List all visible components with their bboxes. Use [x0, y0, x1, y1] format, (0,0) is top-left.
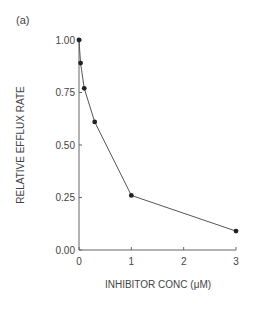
y-tick-label: 0.25	[56, 192, 76, 203]
data-point	[82, 86, 87, 91]
data-line	[79, 40, 236, 231]
y-tick-label: 0.75	[56, 87, 76, 98]
x-tick-label: 3	[233, 256, 239, 267]
y-tick-label: 0.50	[56, 140, 76, 151]
data-point	[92, 120, 97, 125]
x-tick-labels: 0123	[76, 256, 239, 267]
x-tick-label: 2	[181, 256, 187, 267]
data-point	[77, 38, 82, 43]
x-axis-label: INHIBITOR CONC (μM)	[105, 279, 211, 290]
x-tick-label: 0	[76, 256, 82, 267]
y-tick-labels: 0.000.250.500.751.00	[56, 35, 76, 256]
data-point	[234, 229, 239, 234]
efflux-rate-chart: (a) 0.000.250.500.751.00 0123 RELATIVE E…	[0, 0, 254, 309]
y-axis-label: RELATIVE EFFLUX RATE	[15, 86, 26, 204]
panel-label: (a)	[16, 14, 29, 26]
data-point	[78, 61, 83, 66]
x-axis	[79, 247, 236, 250]
y-tick-label: 0.00	[56, 245, 76, 256]
data-point	[129, 193, 134, 198]
y-tick-label: 1.00	[56, 35, 76, 46]
x-tick-label: 1	[129, 256, 135, 267]
